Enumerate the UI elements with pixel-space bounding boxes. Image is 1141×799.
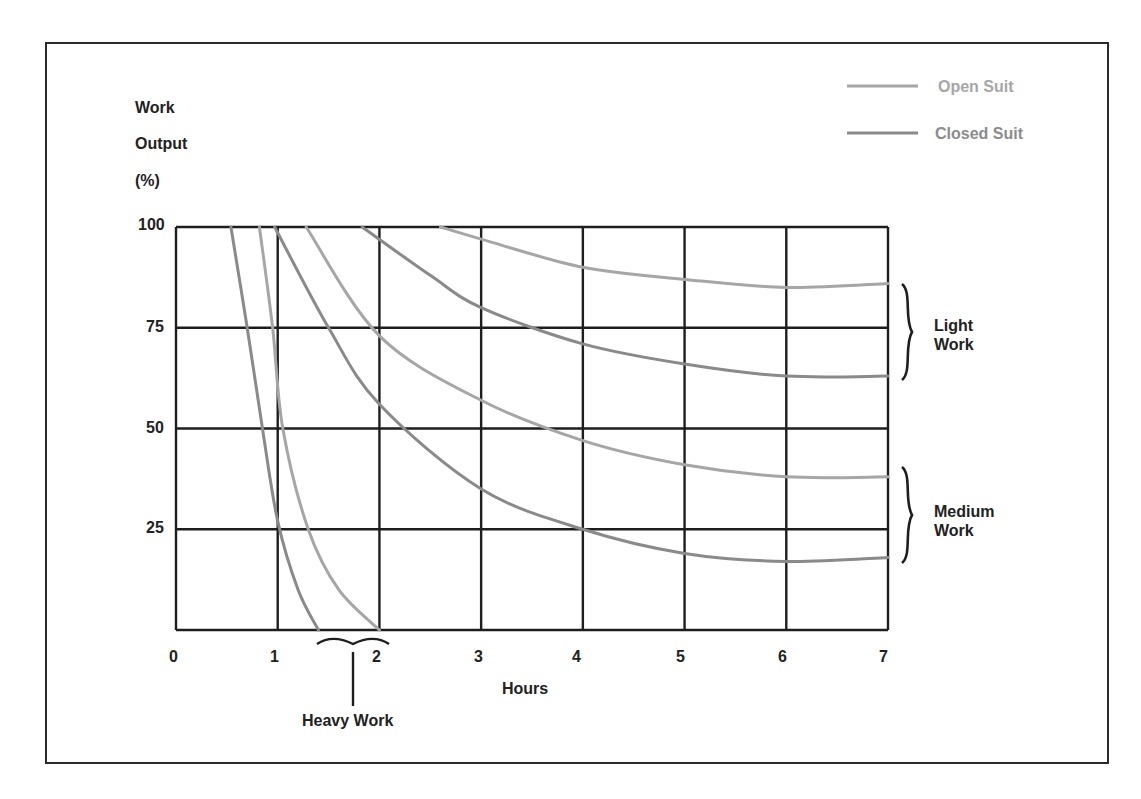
y-axis-title-line3: (%) xyxy=(135,172,160,190)
curve-light-work-closed-suit xyxy=(362,227,888,377)
curve-medium-work-closed-suit xyxy=(275,227,888,562)
heavy-work-label: Heavy Work xyxy=(302,712,393,730)
y-axis-title-line1: Work xyxy=(135,99,175,117)
chart-plot xyxy=(0,0,1141,799)
medium-work-label: Medium Work xyxy=(934,502,994,540)
curve-light-work-open-suit xyxy=(440,227,888,288)
x-tick-6: 6 xyxy=(778,648,787,666)
legend-closed-suit: Closed Suit xyxy=(935,125,1023,143)
x-tick-5: 5 xyxy=(676,648,685,666)
x-tick-0: 0 xyxy=(169,648,178,666)
y-axis-title-line2: Output xyxy=(135,135,187,153)
x-tick-2: 2 xyxy=(372,648,381,666)
heavy-work-brace xyxy=(317,639,389,644)
x-tick-4: 4 xyxy=(572,648,581,666)
x-tick-7: 7 xyxy=(879,648,888,666)
x-tick-1: 1 xyxy=(270,648,279,666)
y-tick-25: 25 xyxy=(146,519,164,537)
x-axis-title: Hours xyxy=(502,680,548,698)
y-tick-100: 100 xyxy=(138,216,165,234)
curve-medium-work-open-suit xyxy=(306,227,888,478)
y-tick-50: 50 xyxy=(146,419,164,437)
medium-work-brace xyxy=(902,467,912,563)
x-tick-3: 3 xyxy=(474,648,483,666)
y-tick-75: 75 xyxy=(146,318,164,336)
legend-open-suit: Open Suit xyxy=(938,78,1014,96)
light-work-brace xyxy=(902,284,912,380)
light-work-label: Light Work xyxy=(934,316,974,354)
